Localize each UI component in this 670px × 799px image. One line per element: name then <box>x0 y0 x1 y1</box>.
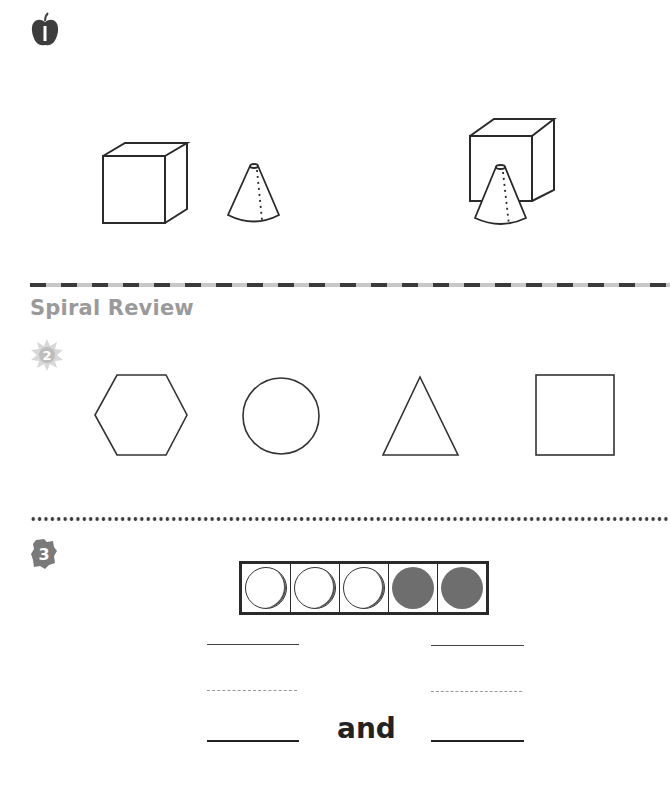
answer-line-left-bottom[interactable] <box>207 740 299 742</box>
empty-counter <box>294 567 336 609</box>
filled-counter <box>441 567 483 609</box>
leaf-icon: 3 <box>30 537 58 571</box>
problem-3-badge: 3 <box>30 537 58 571</box>
five-frame-cell <box>340 564 389 612</box>
svg-text:2: 2 <box>42 348 51 363</box>
section-divider-dotted <box>30 517 670 521</box>
five-frame-cell <box>438 564 486 612</box>
problem-2-badge: 2 <box>30 338 64 372</box>
square-shape <box>536 375 614 455</box>
problem-1-badge: 1 <box>30 12 60 48</box>
section-divider-dashed <box>30 283 670 287</box>
apple-icon <box>30 12 60 48</box>
hexagon-shape <box>95 375 187 455</box>
sun-icon: 2 <box>30 338 64 372</box>
answer-line-left-top[interactable] <box>207 644 299 645</box>
svg-text:3: 3 <box>38 545 49 564</box>
connector-word: and <box>337 712 396 745</box>
circle-shape <box>243 378 319 454</box>
answer-guide-right <box>431 691 522 692</box>
answer-line-right-top[interactable] <box>431 645 524 646</box>
cube-behind-cone-figure <box>460 110 570 235</box>
five-frame-cell <box>242 564 291 612</box>
five-frame-cell <box>389 564 438 612</box>
plane-shapes-row <box>90 370 670 465</box>
empty-counter <box>343 567 385 609</box>
five-frame <box>239 561 489 615</box>
empty-counter <box>245 567 287 609</box>
section-title: Spiral Review <box>30 296 194 320</box>
answer-guide-left <box>207 690 297 691</box>
five-frame-cell <box>291 564 340 612</box>
filled-counter <box>392 567 434 609</box>
triangle-shape <box>383 377 458 455</box>
cone-figure <box>220 160 290 230</box>
answer-line-right-bottom[interactable] <box>431 740 524 742</box>
